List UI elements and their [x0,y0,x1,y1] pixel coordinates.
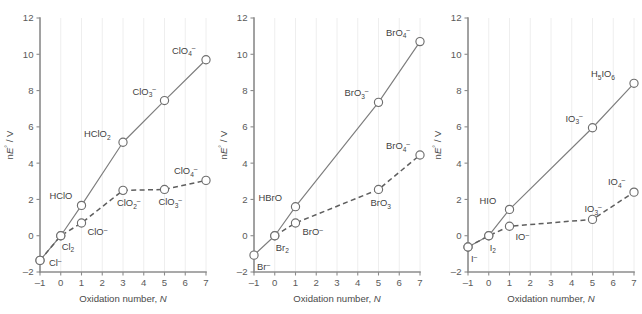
species-label: IO3– [566,112,584,125]
species-label: BrO3– [345,87,369,100]
x-tick-label: 1 [293,277,298,288]
species-label: H5IO6 [591,68,615,81]
species-label: ClO3– [133,85,157,98]
x-tick-label: 7 [417,277,422,288]
data-point-marker [77,219,85,227]
species-label: ClO4– [172,44,196,57]
x-tick-label: –1 [249,277,260,288]
x-axis-title: Oxidation number, N [79,293,167,304]
x-tick-label: 2 [314,277,319,288]
y-tick-label: 12 [451,12,462,23]
y-tick-label: 10 [237,49,248,60]
data-point-marker [57,232,65,240]
species-label: HBrO [259,192,282,203]
x-axis-title: Oxidation number, N [293,293,381,304]
y-tick-label: 4 [242,158,248,169]
y-tick-label: 12 [237,12,248,23]
species-label: HClO [50,190,73,201]
species-label: BrO– [303,226,324,237]
data-point-marker [291,219,299,227]
y-axis-title: nE° / V [4,130,15,159]
x-tick-label: 5 [376,277,381,288]
y-tick-label: 2 [28,194,33,205]
data-point-marker [119,186,127,194]
x-tick-label: 5 [590,277,595,288]
x-tick-label: 3 [334,277,339,288]
frost-panel-bromine: –2024681012–101234567Oxidation number, N… [214,0,428,314]
y-tick-label: 6 [456,121,461,132]
data-point-marker [36,256,44,264]
x-tick-label: 6 [611,277,616,288]
data-point-marker [250,251,258,259]
data-point-marker [160,185,168,193]
y-tick-label: 10 [23,49,34,60]
x-tick-label: 0 [58,277,63,288]
y-axis-title: nE° / V [432,130,443,159]
data-point-marker [416,37,424,45]
x-tick-label: 2 [528,277,533,288]
species-label: IO– [516,231,530,242]
x-tick-label: 6 [397,277,402,288]
frost-panel-iodine: –2024681012–101234567Oxidation number, N… [428,0,642,314]
species-label: ClO4– [174,165,198,178]
frost-panel-chlorine: –2024681012–101234567Oxidation number, N… [0,0,214,314]
y-tick-label: 6 [242,121,247,132]
data-point-marker [291,203,299,211]
x-tick-label: 3 [548,277,553,288]
x-tick-label: 7 [203,277,208,288]
x-tick-label: 0 [272,277,277,288]
x-axis-ticks: –101234567 [249,272,423,288]
y-axis-ticks: –2024681012 [237,12,254,277]
y-tick-label: 12 [23,12,34,23]
data-point-marker [77,201,85,209]
x-tick-label: 1 [79,277,84,288]
x-tick-label: 4 [569,277,575,288]
y-tick-label: 8 [456,85,461,96]
y-tick-label: 8 [28,85,33,96]
y-axis-ticks: –2024681012 [23,12,40,277]
data-point-marker [588,215,596,223]
data-point-marker [416,151,424,159]
x-tick-label: 4 [355,277,361,288]
data-point-marker [202,176,210,184]
y-tick-label: 2 [456,194,461,205]
y-tick-label: 2 [242,194,247,205]
data-point-marker [630,188,638,196]
x-axis-ticks: –101234567 [463,272,637,288]
y-tick-label: 10 [451,49,462,60]
y-axis-ticks: –2024681012 [451,12,468,277]
data-point-marker [485,232,493,240]
y-tick-label: 0 [242,230,247,241]
species-label: Br2 [276,242,289,255]
data-point-marker [505,205,513,213]
y-tick-label: –2 [451,266,462,277]
x-tick-label: 2 [100,277,105,288]
x-tick-label: 3 [120,277,125,288]
frost-diagram-figure: –2024681012–101234567Oxidation number, N… [0,0,642,314]
y-tick-label: 4 [456,158,462,169]
species-label: Cl2 [62,241,75,254]
species-label: Br– [257,261,270,272]
data-point-marker [374,98,382,106]
data-point-marker [119,138,127,146]
y-tick-label: 6 [28,121,33,132]
species-label: I2 [490,242,497,255]
x-tick-label: 1 [507,277,512,288]
x-axis-title: Oxidation number, N [507,293,595,304]
data-point-marker [374,185,382,193]
y-tick-label: 4 [28,158,34,169]
x-tick-label: 5 [162,277,167,288]
species-label: Cl– [49,257,62,268]
species-label: ClO3– [159,196,183,209]
x-axis-ticks: –101234567 [35,272,209,288]
species-label: BrO3 [371,197,392,210]
data-point-marker [505,222,513,230]
y-tick-label: 0 [456,230,461,241]
data-point-marker [202,56,210,64]
species-label: ClO– [88,226,108,237]
data-point-marker [630,79,638,87]
species-label: BrO4– [386,140,410,153]
x-tick-label: 4 [141,277,147,288]
species-label: IO4– [608,176,626,189]
y-tick-label: 0 [28,230,33,241]
